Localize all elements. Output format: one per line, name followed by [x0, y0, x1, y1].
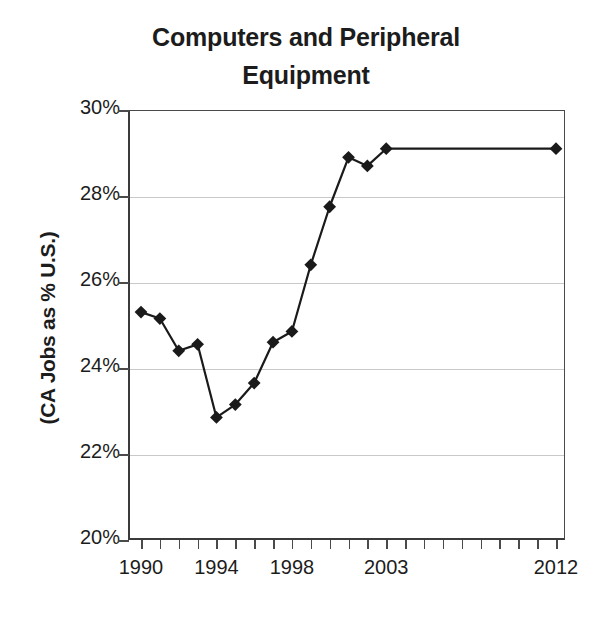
y-axis-tick-mark: [118, 110, 129, 112]
x-axis-tick-mark: [273, 540, 275, 549]
y-axis-tick-label: 30%: [56, 96, 120, 119]
x-axis-tick-mark: [537, 540, 539, 549]
y-axis-tick-mark: [118, 196, 129, 198]
y-axis-tick-label: 22%: [56, 440, 120, 463]
y-axis-tick-mark: [118, 368, 129, 370]
x-axis-tick-mark: [405, 540, 407, 549]
x-axis-tick-mark: [386, 540, 388, 549]
x-axis-tick-mark: [556, 540, 558, 549]
x-axis-tick-mark: [462, 540, 464, 549]
x-axis-tick-mark: [330, 540, 332, 549]
x-axis-tick-mark: [141, 540, 143, 549]
gridline: [130, 197, 564, 198]
x-axis-tick-mark: [499, 540, 501, 549]
y-axis-tick-label: 26%: [56, 268, 120, 291]
x-axis-tick-mark: [254, 540, 256, 549]
x-axis-tick-mark: [349, 540, 351, 549]
x-axis-tick-mark: [424, 540, 426, 549]
y-axis-tick-mark: [118, 282, 129, 284]
x-axis-tick-label: 1998: [252, 556, 332, 579]
x-axis-tick-mark: [198, 540, 200, 549]
x-axis-tick-label: 2003: [346, 556, 426, 579]
y-axis-tick-mark: [118, 540, 129, 542]
y-axis-tick-labels: 30%28%26%24%22%20%: [56, 0, 120, 621]
x-axis-tick-mark: [235, 540, 237, 549]
gridline: [130, 369, 564, 370]
gridline: [130, 283, 564, 284]
x-axis-tick-mark: [367, 540, 369, 549]
gridline: [130, 455, 564, 456]
x-axis-tick-mark: [311, 540, 313, 549]
plot-area: [128, 110, 565, 540]
x-axis-tick-mark: [443, 540, 445, 549]
x-axis-tick-label: 1990: [101, 556, 181, 579]
page-title: Computers and Peripheral Equipment: [70, 18, 542, 94]
x-axis-tick-mark: [216, 540, 218, 549]
x-axis-tick-mark: [160, 540, 162, 549]
x-axis-tick-label: 2012: [516, 556, 596, 579]
y-axis-tick-label: 20%: [56, 526, 120, 549]
y-axis-tick-mark: [118, 454, 129, 456]
y-axis-tick-label: 24%: [56, 354, 120, 377]
x-axis-tick-mark: [481, 540, 483, 549]
x-axis-tick-mark: [518, 540, 520, 549]
x-axis-tick-label: 1994: [176, 556, 256, 579]
y-axis-tick-label: 28%: [56, 182, 120, 205]
x-axis-tick-mark: [292, 540, 294, 549]
chart-figure: Computers and Peripheral Equipment (CA J…: [0, 0, 612, 621]
x-axis-tick-mark: [179, 540, 181, 549]
